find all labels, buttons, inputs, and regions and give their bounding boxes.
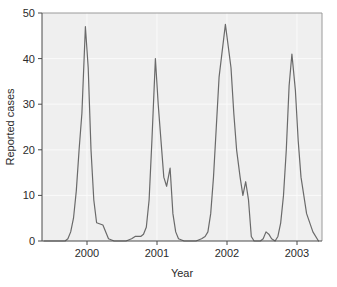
y-tick-label-10: 10 (23, 189, 35, 201)
y-tick-label-30: 30 (23, 98, 35, 110)
x-tick-label-2000: 2000 (75, 247, 99, 259)
reported-cases-line-chart: 0 10 20 30 40 50 2000 2001 2002 2003 Yea… (0, 0, 337, 287)
y-axis-title: Reported cases (4, 88, 16, 166)
x-axis-tick-labels: 2000 2001 2002 2003 (75, 247, 309, 259)
y-tick-label-50: 50 (23, 7, 35, 19)
chart-figure: 0 10 20 30 40 50 2000 2001 2002 2003 Yea… (0, 0, 337, 287)
x-tick-label-2002: 2002 (215, 247, 239, 259)
x-tick-label-2003: 2003 (285, 247, 309, 259)
y-tick-label-0: 0 (29, 235, 35, 247)
x-axis-title: Year (171, 267, 194, 279)
y-tick-label-20: 20 (23, 144, 35, 156)
y-axis-ticks (38, 13, 42, 241)
x-tick-label-2001: 2001 (145, 247, 169, 259)
y-axis-tick-labels: 0 10 20 30 40 50 (23, 7, 35, 247)
y-tick-label-40: 40 (23, 53, 35, 65)
